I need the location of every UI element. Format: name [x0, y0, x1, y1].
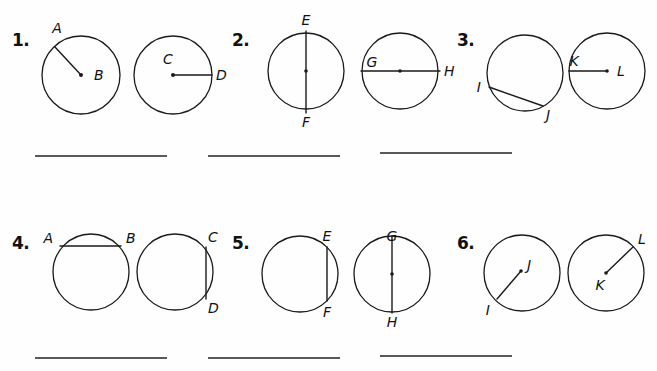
worksheet-page: 1. A B C D 2. E F	[0, 0, 657, 371]
figure-group-6: I J K L	[0, 0, 657, 371]
segment-ij2	[497, 271, 521, 299]
point-label-l2: L	[638, 231, 646, 247]
point-label-j2: J	[524, 257, 531, 273]
interior-point-j	[519, 269, 523, 273]
point-label-k2: K	[595, 277, 606, 293]
answer-line-6[interactable]	[380, 355, 512, 357]
circle-6a	[484, 235, 560, 311]
center-point-k	[604, 271, 608, 275]
point-label-i2: I	[486, 302, 490, 318]
radius-segment-kl2	[606, 247, 633, 273]
